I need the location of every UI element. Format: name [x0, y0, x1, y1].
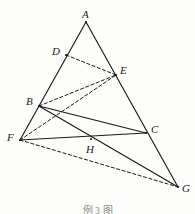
- vertex-label-d: D: [52, 46, 60, 57]
- vertex-label-e: E: [120, 65, 127, 76]
- segment-B-G-through-H: [39, 106, 178, 187]
- vertex-point-h: [90, 138, 92, 140]
- segment-B-C: [39, 106, 146, 133]
- segment-A-F-through-D-B: [20, 22, 86, 140]
- vertex-point-d: [65, 54, 67, 56]
- vertex-point-a: [85, 21, 87, 23]
- vertex-label-f: F: [7, 132, 14, 143]
- vertex-label-g: G: [182, 183, 190, 194]
- vertex-label-c: C: [151, 124, 158, 135]
- vertex-label-b: B: [26, 96, 33, 107]
- vertex-label-h: H: [86, 144, 94, 155]
- figure-canvas: [0, 0, 195, 214]
- segment-F-C-through-H: [20, 133, 146, 140]
- vertex-point-c: [145, 132, 147, 134]
- figure-caption: 例 3 图: [0, 202, 195, 214]
- segment-A-G-through-E-C: [86, 22, 178, 187]
- vertex-label-a: A: [82, 9, 89, 20]
- segment-D-E: [66, 55, 116, 75]
- segment-F-G: [20, 140, 178, 187]
- vertex-point-g: [177, 186, 179, 188]
- segments-layer: [20, 22, 178, 187]
- vertex-point-e: [115, 74, 117, 76]
- segment-F-E: [20, 75, 116, 140]
- geometry-figure: ADEBCFHG 例 3 图: [0, 0, 195, 214]
- vertex-point-f: [19, 139, 21, 141]
- vertex-point-b: [38, 105, 40, 107]
